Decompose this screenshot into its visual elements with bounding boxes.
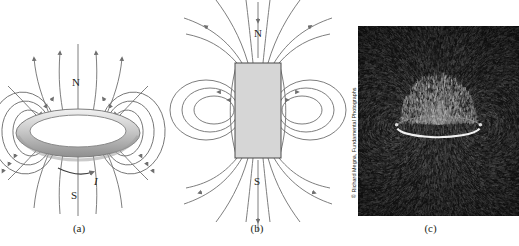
panel-b-caption: (b)	[172, 222, 342, 234]
photo-credit: © Richard Megna, Fundamental Photographs	[351, 48, 357, 198]
panel-b-bar-magnet: N S (b)	[172, 0, 342, 246]
panel-a-north-label: N	[72, 77, 80, 88]
panel-a-south-label: S	[71, 190, 77, 201]
panel-b-north-label: N	[254, 28, 262, 39]
panel-a-current-label: I	[94, 176, 98, 187]
iron-filings-photo	[358, 26, 519, 216]
current-loop-ring	[16, 109, 140, 160]
bar-magnet-body	[235, 63, 281, 158]
panel-c-photograph: © Richard Megna, Fundamental Photographs…	[342, 0, 519, 246]
panel-a-caption: (a)	[0, 222, 158, 234]
iron-filings-photo-canvas	[358, 26, 519, 216]
panel-b-south-label: S	[254, 176, 260, 187]
panel-a-current-loop: N S I (a)	[0, 0, 158, 246]
panel-c-caption: (c)	[342, 222, 519, 234]
current-direction-arrow	[58, 168, 93, 174]
magnetic-field-figure: N S I (a)	[0, 0, 519, 246]
panel-a-diagram	[0, 0, 158, 246]
